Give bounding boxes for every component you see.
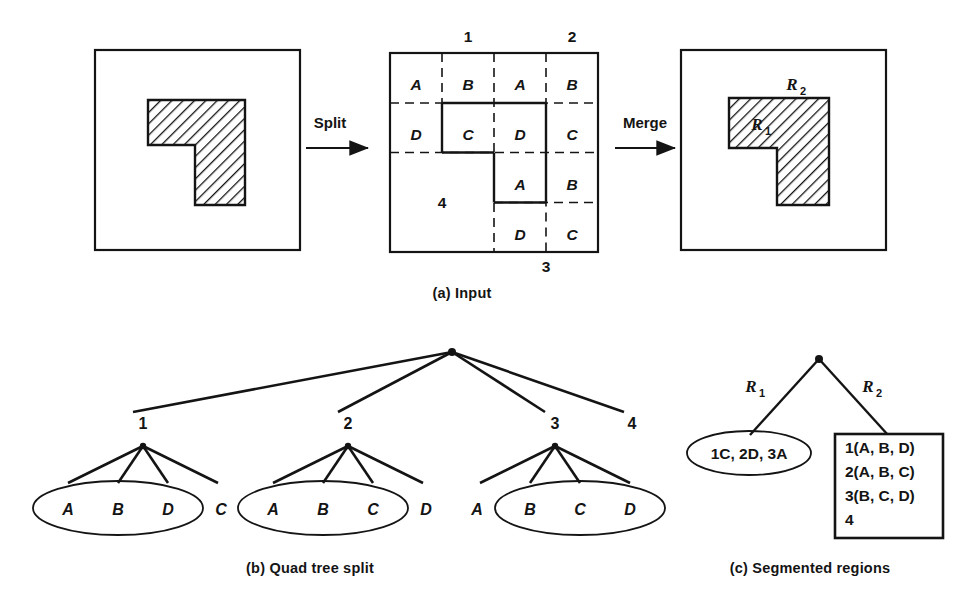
subtree-2-leaf-D: D (420, 501, 432, 518)
subtree-3-leaf-A: A (470, 501, 483, 518)
quadtree-node-4: 4 (628, 415, 637, 432)
panel-a-quad-grid: A B D C A B D C A B D C 4 1 2 3 (390, 28, 598, 275)
branch-2-subscript: 2 (876, 387, 882, 399)
grid-quadrant-3-label: 3 (542, 258, 551, 275)
split-arrow-label: Split (314, 114, 347, 131)
grid-quadrant-1-label: 1 (464, 28, 473, 45)
segmented-box-line-2: 2(A, B, C) (845, 463, 915, 480)
grid-cell-q3-A: A (513, 176, 525, 193)
panel-a-input-image (95, 50, 300, 250)
grid-quadrant-2-label: 2 (568, 28, 577, 45)
grid-cell-q1-A: A (409, 76, 421, 93)
branch-1-subscript: 1 (759, 387, 765, 399)
region-1-subscript: 1 (765, 125, 771, 137)
grid-cell-q2-B: B (566, 76, 577, 93)
subtree-1-leaf-A: A (61, 501, 74, 518)
subtree-2-leaf-B: B (317, 501, 329, 518)
split-merge-figure: Split A B D C A B (0, 0, 976, 607)
grid-cell-q3-D: D (514, 226, 525, 243)
branch-1-symbol: R (744, 377, 756, 396)
grid-cell-q2-A: A (513, 76, 525, 93)
caption-b: (b) Quad tree split (246, 560, 374, 576)
subtree-3-leaf-B: B (524, 501, 536, 518)
region-1-symbol: R (750, 115, 762, 134)
caption-c: (c) Segmented regions (730, 560, 891, 576)
grid-cell-q2-C: C (566, 126, 578, 143)
grid-cell-q3-C: C (566, 226, 578, 243)
subtree-2-leaf-C: C (367, 501, 379, 518)
segmented-region-1-text: 1C, 2D, 3A (711, 445, 788, 462)
figure-root: Split A B D C A B (0, 0, 976, 607)
quadtree-node-1: 1 (139, 415, 148, 432)
quadtree-node-2: 2 (344, 415, 353, 432)
subtree-3-leaf-D: D (624, 501, 636, 518)
merge-arrow-label: Merge (623, 114, 667, 131)
grid-cell-q1-B: B (462, 76, 473, 93)
grid-cell-q1-D: D (410, 126, 421, 143)
segmented-box-line-4: 4 (845, 511, 854, 528)
subtree-1-leaf-C: C (215, 501, 227, 518)
grid-cell-q3-B: B (566, 176, 577, 193)
quadtree-node-3: 3 (551, 415, 560, 432)
caption-a: (a) Input (433, 285, 492, 301)
segmented-box-line-3: 3(B, C, D) (845, 487, 915, 504)
subtree-1-leaf-B: B (112, 501, 124, 518)
panel-a-merged-image: R 2 R 1 (681, 50, 886, 250)
region-2-symbol: R (785, 75, 797, 94)
segmented-box-line-1: 1(A, B, D) (845, 439, 915, 456)
region-2-subscript: 2 (800, 85, 806, 97)
grid-cell-q1-C: C (462, 126, 474, 143)
grid-quadrant-4-label: 4 (438, 194, 447, 211)
subtree-2-leaf-A: A (266, 501, 279, 518)
subtree-3-leaf-C: C (574, 501, 586, 518)
subtree-1-leaf-D: D (162, 501, 174, 518)
branch-2-symbol: R (861, 377, 873, 396)
grid-cell-q2-D: D (514, 126, 525, 143)
